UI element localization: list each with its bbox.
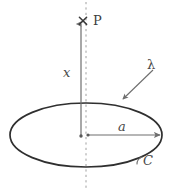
label-axial-distance-x: x: [63, 66, 70, 79]
label-curve-c: C: [143, 154, 153, 167]
label-point-p: P: [93, 14, 102, 27]
lambda-leader-line: [123, 70, 153, 99]
ring-center-dot: [86, 133, 89, 136]
label-charge-density-lambda: λ: [147, 58, 155, 71]
figure-canvas: P x λ a C: [0, 0, 173, 190]
label-radius-a: a: [118, 120, 126, 133]
point-P-marker: [79, 17, 86, 24]
axis-base-dot: [79, 134, 82, 137]
